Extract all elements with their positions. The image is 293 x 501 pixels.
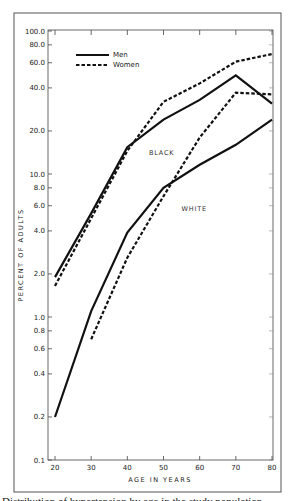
y-tick-label: 0.6 — [34, 345, 46, 353]
y-tick-label: 0.1 — [34, 457, 45, 465]
x-tick-label: 80 — [268, 464, 277, 472]
y-tick-label: 40.0 — [29, 84, 45, 92]
x-tick-label: 70 — [231, 464, 240, 472]
legend-label-women: Women — [113, 61, 139, 69]
series-white-women — [91, 93, 272, 340]
x-axis: 20304050607080 — [51, 30, 277, 472]
series-black-women — [55, 54, 272, 286]
x-tick-label: 60 — [195, 464, 204, 472]
legend-label-men: Men — [113, 51, 128, 59]
series-layer — [55, 54, 272, 417]
y-axis-title: PERCENT OF ADULTS — [17, 208, 25, 301]
y-tick-label: 8.0 — [34, 184, 45, 192]
y-tick-label: 0.8 — [34, 327, 45, 335]
x-tick-label: 40 — [123, 464, 132, 472]
y-tick-label: 80.0 — [29, 41, 45, 49]
figure-caption: Distribution of hypertension by age in t… — [2, 493, 262, 501]
annotations: BLACKWHITE — [149, 149, 207, 213]
x-tick-label: 20 — [51, 464, 60, 472]
y-tick-label: 4.0 — [34, 227, 45, 235]
y-tick-label: 60.0 — [29, 59, 45, 67]
series-white-men — [55, 120, 272, 417]
y-tick-label: 6.0 — [34, 202, 45, 210]
series-black-men — [55, 75, 272, 277]
x-tick-label: 50 — [159, 464, 168, 472]
legend: Men Women — [76, 51, 139, 69]
plot-area: 0.10.20.40.60.81.02.04.06.08.010.020.040… — [25, 28, 277, 473]
y-tick-label: 100.0 — [25, 28, 45, 36]
y-tick-label: 0.2 — [34, 413, 45, 421]
y-tick-label: 1.0 — [34, 314, 45, 322]
label-black: BLACK — [149, 149, 174, 157]
line-chart: 0.10.20.40.60.81.02.04.06.08.010.020.040… — [0, 0, 293, 501]
x-tick-label: 30 — [87, 464, 96, 472]
y-tick-label: 20.0 — [29, 127, 45, 135]
y-tick-label: 10.0 — [29, 171, 45, 179]
outer-frame — [14, 13, 281, 492]
y-tick-label: 0.4 — [34, 370, 46, 378]
x-axis-title: AGE IN YEARS — [128, 476, 192, 484]
y-tick-label: 2.0 — [34, 270, 45, 278]
plot-border — [48, 30, 273, 460]
label-white: WHITE — [182, 205, 207, 213]
